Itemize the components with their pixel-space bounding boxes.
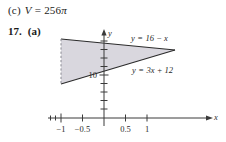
- answer-part-label: (c): [8, 4, 21, 16]
- lower-eq-rhs: 3x + 12: [146, 65, 174, 75]
- problem-number: 17.: [8, 25, 22, 37]
- y-axis-label: y: [107, 28, 112, 38]
- coordinate-plot: y x −1 −0.5 0.5 1: [40, 28, 226, 140]
- answer-value: 256: [44, 4, 61, 16]
- x-tick-label-neg05: −0.5: [75, 124, 90, 134]
- x-axis-label: x: [213, 112, 218, 122]
- problem-part-label: (a): [22, 25, 41, 37]
- lower-eq-lhs: y: [131, 65, 136, 75]
- y-axis-arrow-icon: [101, 29, 106, 36]
- x-axis-arrow-icon: [206, 115, 213, 120]
- upper-eq-lhs: y: [130, 33, 135, 43]
- answer-line-c: (c)V=256π: [8, 4, 67, 16]
- x-tick-label-1: 1: [145, 124, 149, 134]
- shaded-region: [61, 39, 175, 84]
- upper-eq-rhs: 16 − x: [146, 33, 168, 43]
- answer-equals-sign: =: [32, 4, 44, 16]
- problem-line-17: 17.(a): [8, 25, 41, 37]
- y-tick-label-10: 10: [89, 70, 98, 80]
- textbook-page: (c)V=256π 17.(a) y x: [0, 0, 226, 142]
- x-tick-label-05: 0.5: [120, 124, 131, 134]
- x-tick-label-neg1: −1: [56, 124, 65, 134]
- graph-figure: y x −1 −0.5 0.5 1: [40, 28, 226, 140]
- upper-eq-equals: =: [138, 33, 143, 43]
- answer-variable: V: [21, 4, 32, 16]
- lower-eq-equals: =: [139, 65, 144, 75]
- lower-curve-equation-label: y=3x + 12: [131, 65, 174, 75]
- upper-curve-equation-label: y=16 − x: [130, 33, 168, 43]
- pi-symbol: π: [61, 4, 67, 16]
